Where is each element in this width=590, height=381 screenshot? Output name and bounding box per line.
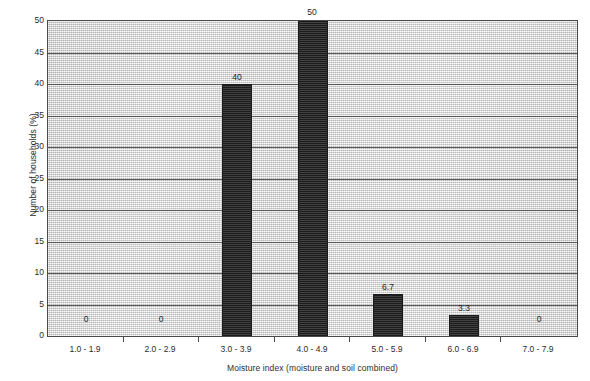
x-axis-tick — [274, 337, 275, 342]
y-axis-tick-label: 5 — [20, 299, 44, 309]
y-axis-tick-label: 15 — [20, 236, 44, 246]
bar-value-label: 0 — [66, 314, 106, 324]
x-axis-tick-label: 3.0 - 3.9 — [220, 344, 251, 354]
x-axis-tick-label: 7.0 - 7.9 — [522, 344, 553, 354]
bar-value-label: 40 — [217, 72, 257, 82]
x-axis-tick-label: 2.0 - 2.9 — [144, 344, 175, 354]
x-axis-tick — [425, 337, 426, 342]
x-axis-tick — [123, 337, 124, 342]
x-axis-tick — [349, 337, 350, 342]
bar — [449, 315, 479, 336]
x-axis-tick-label: 6.0 - 6.9 — [447, 344, 478, 354]
y-axis-tick-label: 50 — [20, 15, 44, 25]
y-axis-tick-label: 45 — [20, 47, 44, 57]
y-axis-tick-label: 20 — [20, 204, 44, 214]
plot-area: 00406.73.30 — [47, 20, 578, 337]
y-axis-tick-label: 40 — [20, 78, 44, 88]
bar — [298, 21, 328, 336]
bar-value-label: 3.3 — [444, 303, 484, 313]
x-axis-tick-label: 1.0 - 1.9 — [69, 344, 100, 354]
bar-value-label: 6.7 — [368, 282, 408, 292]
y-axis-tick-label: 30 — [20, 141, 44, 151]
bar — [222, 84, 252, 336]
x-axis-title: Moisture index (moisture and soil combin… — [47, 363, 578, 373]
bar — [373, 294, 403, 336]
y-axis-tick-labels: 05101520253035404550 — [20, 14, 44, 339]
x-axis-ticks — [47, 337, 578, 343]
x-axis-tick-label: 4.0 - 4.9 — [296, 344, 327, 354]
bar-chart: Number of households (%) 051015202530354… — [0, 0, 590, 381]
x-axis-tick-labels: 1.0 - 1.92.0 - 2.93.0 - 3.94.0 - 4.95.0 … — [47, 344, 578, 358]
bar-value-label: 50 — [292, 7, 332, 17]
x-axis-tick-label: 5.0 - 5.9 — [371, 344, 402, 354]
x-axis-tick — [198, 337, 199, 342]
y-axis-tick-label: 25 — [20, 173, 44, 183]
y-axis-tick-label: 10 — [20, 267, 44, 277]
bar-value-label: 0 — [519, 314, 559, 324]
y-axis-tick-label: 35 — [20, 110, 44, 120]
y-axis-tick-label: 0 — [20, 330, 44, 340]
x-axis-tick — [500, 337, 501, 342]
bar-value-label: 0 — [141, 314, 181, 324]
